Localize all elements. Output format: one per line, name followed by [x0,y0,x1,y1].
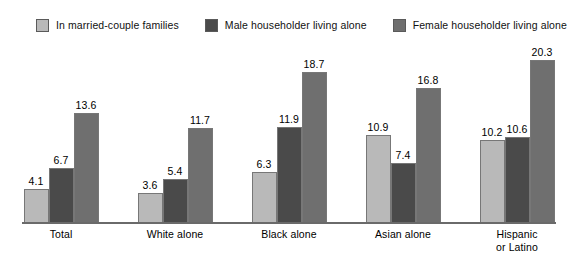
bar-column[interactable]: 11.7 [188,40,213,222]
bar-groups: 4.16.713.63.65.411.76.311.918.710.97.416… [22,40,556,222]
x-axis-tick-label-line: Hispanic [496,228,537,240]
x-axis-tick-label: Asian alone [364,228,442,254]
bar-value-label: 11.9 [279,114,299,125]
bar[interactable] [49,168,74,222]
bar-value-label: 3.6 [143,180,158,191]
bar[interactable] [252,172,277,222]
bar-value-label: 10.9 [368,122,389,133]
bar[interactable] [366,135,391,222]
bar-column[interactable]: 11.9 [277,40,302,222]
bar-group: 3.65.411.7 [136,40,214,222]
legend-item-label: Female householder living alone [413,19,567,31]
bar-chart: In married-couple families Male househol… [0,0,576,267]
bar-value-label: 20.3 [532,47,553,58]
bar[interactable] [74,113,99,222]
bar-group: 10.97.416.8 [364,40,442,222]
bar-column[interactable]: 16.8 [416,40,441,222]
x-axis-tick-label-line: or Latino [478,241,556,254]
bar-column[interactable]: 5.4 [163,40,188,222]
bar-value-label: 7.4 [396,150,411,161]
bar[interactable] [277,127,302,222]
bar-value-label: 5.4 [168,166,183,177]
legend-item-male-householder-living-alone: Male householder living alone [205,19,367,32]
bar[interactable] [138,193,163,222]
bar-value-label: 13.6 [76,100,97,111]
bar-value-label: 11.7 [190,115,210,126]
bar-column[interactable]: 20.3 [530,40,555,222]
bar-value-label: 6.7 [54,155,69,166]
bar[interactable] [505,137,530,222]
bar-column[interactable]: 6.3 [252,40,277,222]
bar-group: 10.210.620.3 [478,40,556,222]
bar-column[interactable]: 18.7 [302,40,327,222]
legend-item-label: Male householder living alone [225,19,367,31]
bar[interactable] [302,72,327,222]
plot-area: 4.16.713.63.65.411.76.311.918.710.97.416… [0,40,576,267]
chart-legend: In married-couple families Male househol… [0,14,576,36]
x-axis-tick-label-line: Total [50,228,73,240]
bar-value-label: 16.8 [418,75,439,86]
bar-value-label: 10.6 [507,124,528,135]
legend-swatch-icon [205,19,218,32]
x-axis-tick-label-line: White alone [147,228,204,240]
bar[interactable] [163,179,188,222]
bar[interactable] [480,140,505,222]
x-axis-tick-label-line: Black alone [261,228,316,240]
bar[interactable] [24,189,49,222]
x-axis-category-labels: TotalWhite aloneBlack aloneAsian aloneHi… [22,228,556,254]
x-axis-line [22,222,556,224]
legend-item-female-householder-living-alone: Female householder living alone [393,19,567,32]
legend-item-married-couple-families: In married-couple families [36,19,179,32]
bar-column[interactable]: 4.1 [24,40,49,222]
bar-column[interactable]: 10.6 [505,40,530,222]
bar-column[interactable]: 3.6 [138,40,163,222]
bar-value-label: 4.1 [29,176,44,187]
bar-group: 4.16.713.6 [22,40,100,222]
bar-value-label: 18.7 [304,59,325,70]
x-axis-tick-label: Total [22,228,100,254]
legend-swatch-icon [36,19,49,32]
bar[interactable] [391,163,416,222]
legend-item-label: In married-couple families [56,19,179,31]
x-axis-tick-label: Hispanicor Latino [478,228,556,254]
bar-group: 6.311.918.7 [250,40,328,222]
x-axis-tick-label: White alone [136,228,214,254]
bar-column[interactable]: 7.4 [391,40,416,222]
bar[interactable] [188,128,213,222]
bar-column[interactable]: 6.7 [49,40,74,222]
bar-value-label: 10.2 [482,127,503,138]
legend-swatch-icon [393,19,406,32]
x-axis-tick-label: Black alone [250,228,328,254]
bar[interactable] [416,88,441,222]
bar-value-label: 6.3 [257,159,272,170]
bar[interactable] [530,60,555,222]
x-axis-tick-label-line: Asian alone [375,228,431,240]
bar-column[interactable]: 13.6 [74,40,99,222]
bar-column[interactable]: 10.2 [480,40,505,222]
bar-column[interactable]: 10.9 [366,40,391,222]
